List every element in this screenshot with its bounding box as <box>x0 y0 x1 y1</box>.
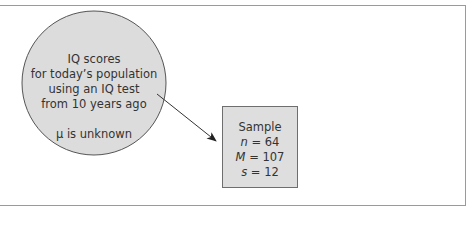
population-mean-status: μ is unknown <box>22 127 166 142</box>
population-label: IQ scores for today’s population using a… <box>22 52 166 142</box>
sample-size: n = 64 <box>223 135 297 150</box>
sample-title: Sample <box>223 120 297 135</box>
M-value: = 107 <box>249 150 284 164</box>
M-symbol: M <box>236 150 246 164</box>
n-symbol: n <box>241 135 248 149</box>
spacer <box>22 112 166 127</box>
population-line: IQ scores <box>22 52 166 67</box>
s-symbol: s <box>241 165 247 179</box>
n-value: = 64 <box>252 135 280 149</box>
population-line: for today’s population <box>22 67 166 82</box>
sample-mean: M = 107 <box>223 150 297 165</box>
population-line: from 10 years ago <box>22 97 166 112</box>
population-line: using an IQ test <box>22 82 166 97</box>
sample-box: Sample n = 64 M = 107 s = 12 <box>222 106 298 188</box>
s-value: = 12 <box>251 165 279 179</box>
sample-sd: s = 12 <box>223 165 297 180</box>
